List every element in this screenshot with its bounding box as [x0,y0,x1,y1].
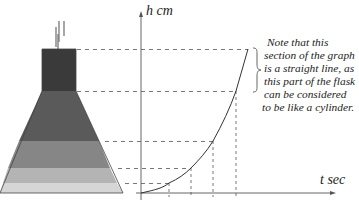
note-line: section of the graph [264,49,359,62]
annotation-note: Note that this section of the graph is a… [264,36,359,114]
flask-bottom-cone [0,183,123,193]
y-axis-label: h cm [146,3,173,19]
flask-middle-cone [8,141,110,168]
x-axis-arrow-icon [330,191,336,195]
flask [0,49,123,193]
x-axis-label: t sec [320,172,345,188]
height-time-curve [141,49,248,193]
flask-upper-cone [19,91,99,141]
vertical-guides [169,91,236,197]
note-line: can be considered [264,88,359,101]
note-line: this part of the flask [264,75,359,88]
note-line: Note that this [264,36,359,49]
y-axis-arrow-icon [139,11,143,17]
tap-stream-icon [56,21,64,50]
flask-neck [42,49,76,91]
note-line: is a straight line, as [264,62,359,75]
note-line: to be like a cylinder. [262,101,359,114]
brace-icon [253,48,261,92]
flask-lower-cone [3,168,117,183]
